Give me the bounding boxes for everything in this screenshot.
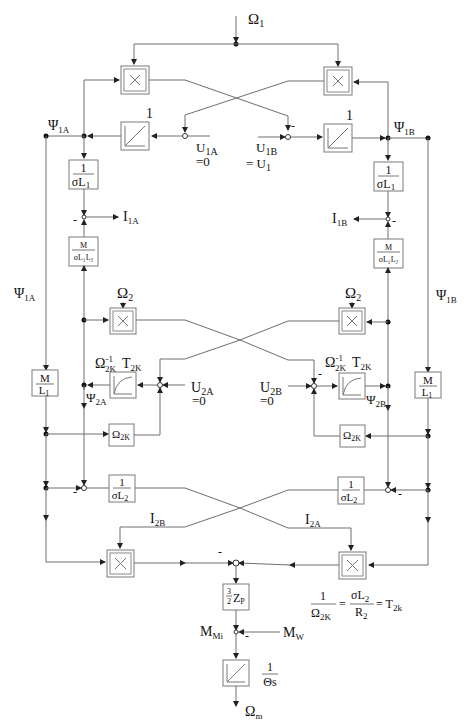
svg-text:=0: =0: [196, 154, 210, 169]
svg-text:2: 2: [227, 597, 231, 606]
label-psi1b-top: Ψ1B: [394, 120, 415, 137]
svg-text:-: -: [73, 213, 77, 227]
label-omega2-right: Ω2: [345, 285, 361, 303]
sum-u1b: [286, 135, 291, 140]
svg-text:-: -: [245, 629, 249, 643]
svg-text:M: M: [80, 241, 87, 250]
block-m-sigma-l1l2-left: M σL₁L₂: [69, 237, 98, 266]
svg-text:3: 3: [227, 587, 231, 596]
svg-text:R2: R2: [355, 605, 368, 621]
svg-text:-: -: [392, 214, 396, 228]
svg-text:1: 1: [119, 476, 125, 488]
label-inv-theta-s: 1 Θs: [262, 660, 278, 689]
svg-text:-: -: [73, 485, 77, 499]
omega1-input: Ω1: [236, 11, 264, 42]
block-inv-sigma-l1-left: 1 σL1: [69, 160, 98, 190]
multiplier-bot-left: [107, 550, 134, 577]
sum-torque: [233, 560, 239, 566]
svg-text:=0: =0: [192, 393, 206, 408]
svg-text:1: 1: [81, 161, 87, 175]
svg-text:1: 1: [146, 106, 153, 121]
svg-text:σL₁L₂: σL₁L₂: [74, 253, 94, 262]
sum-u2a: [158, 383, 163, 388]
svg-text:= T2k: = T2k: [376, 597, 402, 613]
multiplier-mid-left: [110, 308, 136, 334]
label-mw: MW: [283, 625, 304, 642]
label-i1a: I1A: [123, 209, 139, 226]
block-m-over-l1-right: M L1: [415, 372, 441, 400]
block-m-sigma-l1l2-right: M σL₁L₂: [374, 239, 403, 268]
svg-text:Ω1: Ω1: [248, 11, 264, 29]
label-u1b: U1B: [256, 140, 277, 157]
integrator-left: 1: [121, 106, 153, 150]
block-inv-sigma-l1-right: 1 σL1: [374, 162, 403, 192]
sum-u1a: [183, 134, 188, 139]
svg-text:-: -: [318, 367, 322, 381]
svg-text:=0: =0: [260, 393, 274, 408]
sum-i1a: [82, 215, 86, 219]
sum-u2b: [312, 384, 317, 389]
multiplier-mid-right: [339, 308, 365, 334]
label-mmi: MMi: [200, 624, 223, 641]
block-omega2k-right: Ω2K: [340, 425, 365, 447]
block-inv-sigma-l2-right: 1 σL2: [338, 477, 364, 505]
label-i2b: I2B: [150, 511, 165, 528]
svg-text:M: M: [385, 243, 392, 252]
pt1-block-right: [339, 373, 365, 399]
svg-text:1: 1: [346, 108, 353, 123]
sum-i2-right: [386, 488, 391, 493]
multiplier-top-left: [121, 66, 149, 94]
mechanical-integrator: [223, 660, 249, 686]
multiplier-top-right: [324, 67, 352, 95]
label-i2a: I2A: [305, 512, 321, 529]
label-pt1-right: Ω-12KT2K: [325, 353, 372, 373]
svg-text:1: 1: [348, 478, 354, 490]
block-torque-gain: 3 2 ZP: [223, 584, 249, 610]
integrator-right: 1: [324, 108, 353, 152]
svg-text:-: -: [398, 487, 402, 501]
block-inv-sigma-l2-left: 1 σL2: [109, 475, 135, 503]
pt1-block-left: [110, 372, 136, 398]
svg-text:1: 1: [386, 163, 392, 177]
svg-text:=: =: [339, 597, 346, 611]
svg-text:Ω2K: Ω2K: [311, 606, 331, 622]
svg-text:σL₁L₂: σL₁L₂: [379, 255, 399, 264]
svg-text:Θs: Θs: [263, 675, 277, 689]
label-psi1b-side: Ψ1B: [436, 288, 457, 305]
block-omega2k-left: Ω2K: [109, 424, 134, 446]
svg-text:1: 1: [267, 660, 273, 674]
svg-text:-: -: [291, 119, 295, 133]
svg-text:= U1: = U1: [246, 156, 271, 173]
svg-text:-: -: [218, 545, 222, 559]
multiplier-bot-right: [339, 552, 366, 579]
block-m-over-l1-left: M L1: [32, 370, 58, 398]
label-psi1a-side: Ψ1A: [14, 286, 36, 303]
sum-mechanical: [234, 630, 238, 634]
label-psi2b: Ψ2B: [366, 392, 386, 409]
label-omega2-left: Ω2: [117, 285, 133, 303]
label-psi2a: Ψ2A: [86, 390, 107, 407]
label-pt1-left: Ω-12KT2K: [95, 354, 142, 374]
block-diagram: Ω1 - 1 Ψ1A U1A =0: [0, 0, 476, 728]
sum-i2-left: [82, 486, 87, 491]
svg-text:1: 1: [320, 589, 326, 603]
sum-i1b: [386, 217, 390, 221]
svg-text:σL2: σL2: [351, 588, 369, 604]
svg-text:M: M: [423, 374, 433, 386]
label-omega-m: Ωm: [245, 704, 262, 721]
equation-t2k: 1 Ω2K = σL2 R2 = T2k: [311, 588, 402, 622]
label-i1b: I1B: [332, 211, 347, 228]
svg-text:M: M: [40, 372, 50, 384]
label-psi1a-top: Ψ1A: [48, 118, 70, 135]
